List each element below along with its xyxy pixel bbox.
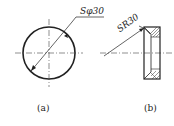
sphere-diameter-label: Sφ30 bbox=[80, 6, 104, 16]
caption-a: (a) bbox=[37, 103, 49, 113]
sphere-view bbox=[15, 17, 104, 87]
section-view bbox=[100, 26, 174, 79]
caption-b: (b) bbox=[144, 103, 157, 113]
